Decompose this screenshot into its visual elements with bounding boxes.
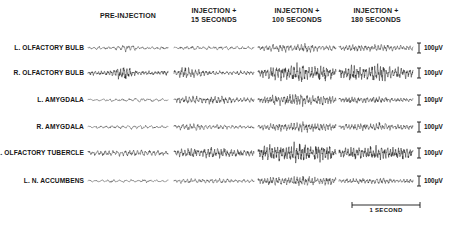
trace-l-amygdala-pre-injection [88, 98, 168, 102]
amplitude-scale-label-l-olfactory-tubercle: 100μV [424, 149, 443, 157]
amplitude-scale-bar-r-olfactory-bulb [417, 68, 421, 78]
trace-r-amygdala-injection-100s [258, 121, 336, 132]
trace-l-olfactory-tubercle-injection-100s [258, 142, 336, 163]
trace-l-olfactory-bulb-injection-100s [258, 43, 336, 52]
amplitude-scale-bar-r-amygdala [417, 122, 421, 132]
trace-l-n-accumbens-injection-15s [174, 178, 254, 183]
trace-r-olfactory-bulb-injection-180s [339, 64, 413, 82]
amplitude-scale-label-l-n-accumbens: 100μV [424, 177, 443, 185]
trace-r-olfactory-bulb-injection-100s [258, 63, 336, 82]
trace-l-amygdala-injection-180s [339, 97, 413, 104]
trace-l-olfactory-tubercle-injection-15s [174, 147, 254, 158]
trace-r-amygdala-injection-180s [339, 122, 413, 131]
amplitude-scale-label-l-amygdala: 100μV [424, 96, 443, 104]
trace-r-olfactory-bulb-pre-injection [88, 68, 168, 80]
amplitude-scale-label-r-olfactory-bulb: 100μV [424, 69, 443, 77]
amplitude-scale-bar-l-olfactory-tubercle [417, 148, 421, 158]
trace-l-amygdala-injection-100s [258, 94, 336, 107]
trace-l-n-accumbens-pre-injection [88, 179, 168, 183]
trace-l-olfactory-bulb-pre-injection [88, 45, 168, 52]
trace-r-amygdala-pre-injection [88, 125, 168, 129]
trace-canvas [0, 0, 461, 228]
trace-l-olfactory-tubercle-injection-180s [339, 145, 413, 160]
trace-l-amygdala-injection-15s [174, 96, 254, 104]
eeg-recording-figure: PRE-INJECTIONINJECTION + 15 SECONDSINJEC… [0, 0, 461, 228]
trace-l-n-accumbens-injection-100s [258, 176, 336, 186]
trace-r-olfactory-bulb-injection-15s [174, 67, 254, 77]
amplitude-scale-label-l-olfactory-bulb: 100μV [424, 44, 443, 52]
trace-l-olfactory-bulb-injection-180s [339, 44, 413, 51]
amplitude-scale-bar-l-olfactory-bulb [417, 43, 421, 53]
time-scale-label: 1 SECOND [352, 207, 420, 214]
trace-l-olfactory-tubercle-pre-injection [88, 150, 168, 157]
trace-l-n-accumbens-injection-180s [339, 178, 413, 184]
amplitude-scale-bar-l-n-accumbens [417, 176, 421, 186]
trace-r-amygdala-injection-15s [174, 124, 254, 131]
amplitude-scale-bar-l-amygdala [417, 95, 421, 105]
amplitude-scale-label-r-amygdala: 100μV [424, 123, 443, 131]
trace-l-olfactory-bulb-injection-15s [174, 46, 254, 50]
